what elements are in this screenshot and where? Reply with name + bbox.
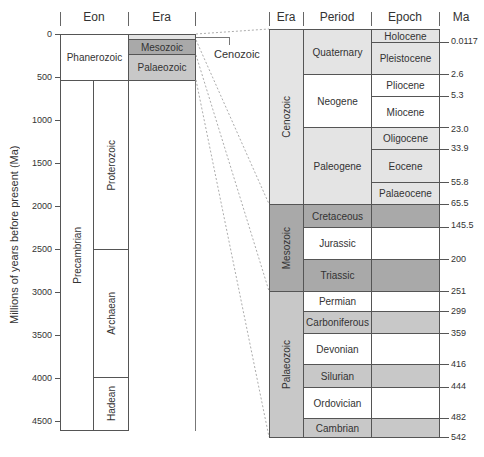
ma-tick [439, 182, 449, 183]
ma-tick [439, 42, 449, 43]
ma-label: 416 [451, 359, 466, 369]
ma-tick [439, 259, 449, 260]
epoch-oligocene: Oligocene [371, 127, 440, 150]
ma-tick [439, 437, 449, 438]
epoch-permian-blank [371, 291, 440, 312]
period-quaternary: Quaternary [303, 29, 372, 75]
era-cenozoic: Cenozoic [269, 29, 304, 205]
epoch-eocene: Eocene [371, 149, 440, 183]
ma-tick [439, 227, 449, 228]
ma-tick [439, 127, 449, 128]
epoch-silurian-blank [371, 364, 440, 388]
epoch-triassic-blank [371, 259, 440, 292]
epoch-cambrian-blank [371, 418, 440, 438]
ma-label: 200 [451, 254, 466, 264]
ma-tick [439, 96, 449, 97]
ma-label: 23.0 [451, 124, 469, 134]
epoch-carboniferous-blank [371, 311, 440, 334]
ma-label: 145.5 [451, 220, 474, 230]
period-silurian: Silurian [303, 364, 372, 388]
epoch-holocene: Holocene [371, 29, 440, 43]
epoch-cretaceous-blank [371, 204, 440, 228]
ma-label: 299 [451, 306, 466, 316]
epoch-pliocene: Pliocene [371, 74, 440, 97]
ma-tick [439, 149, 449, 150]
ma-label: 359 [451, 328, 466, 338]
period-permian: Permian [303, 291, 372, 312]
ma-tick [439, 291, 449, 292]
epoch-miocene: Miocene [371, 96, 440, 128]
period-ordovician: Ordovician [303, 387, 372, 419]
period-devonian: Devonian [303, 333, 372, 365]
ma-label: 2.6 [451, 69, 464, 79]
ma-tick [439, 364, 449, 365]
ma-label: 0.0117 [451, 36, 478, 46]
period-triassic: Triassic [303, 259, 372, 292]
ma-label: 65.5 [451, 198, 469, 208]
period-jurassic: Jurassic [303, 227, 372, 260]
ma-label: 444 [451, 381, 466, 391]
ma-label: 542 [451, 432, 466, 442]
ma-tick [439, 74, 449, 75]
period-cambrian: Cambrian [303, 418, 372, 438]
ma-tick [439, 418, 449, 419]
period-cretaceous: Cretaceous [303, 204, 372, 228]
ma-label: 55.8 [451, 177, 469, 187]
epoch-ordovician-blank [371, 387, 440, 419]
period-carboniferous: Carboniferous [303, 311, 372, 334]
ma-label: 482 [451, 412, 466, 422]
era-mesozoic-right: Mesozoic [269, 204, 304, 292]
period-neogene: Neogene [303, 74, 372, 128]
ma-label: 5.3 [451, 90, 464, 100]
era-palaeozoic-right: Palaeozoic [269, 291, 304, 438]
ma-label: 251 [451, 286, 466, 296]
period-paleogene: Paleogene [303, 127, 372, 205]
epoch-jurassic-blank [371, 227, 440, 260]
ma-label: 33.9 [451, 143, 469, 153]
epoch-pleistocene: Pleistocene [371, 42, 440, 75]
ma-tick [439, 333, 449, 334]
epoch-palaeocene: Palaeocene [371, 182, 440, 205]
epoch-devonian-blank [371, 333, 440, 365]
ma-tick [439, 204, 449, 205]
ma-tick [439, 311, 449, 312]
ma-tick [439, 387, 449, 388]
